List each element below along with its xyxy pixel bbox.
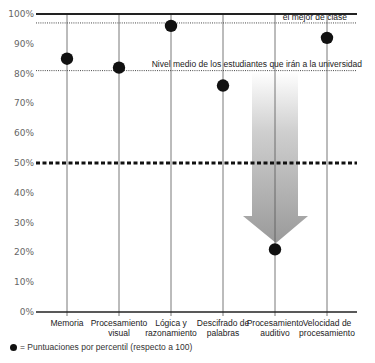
data-point-dot <box>217 79 229 91</box>
y-tick-label: 20% <box>14 247 34 257</box>
data-point-dot <box>321 32 333 44</box>
data-point-dot <box>269 243 281 255</box>
reference-lines <box>36 23 357 163</box>
y-axis-tick-labels: 0%10%20%30%40%50%60%70%80%90%100% <box>8 9 34 317</box>
y-tick-label: 100% <box>8 9 34 19</box>
x-category-label: Lógica y <box>155 318 187 328</box>
x-category-label: Procesamiento <box>91 318 148 328</box>
x-axis-category-labels: MemoriaProcesamientovisualLógica yrazona… <box>50 318 355 338</box>
legend: = Puntuaciones por percentil (respecto a… <box>10 342 192 352</box>
decline-arrow <box>243 72 308 243</box>
x-category-label: auditivo <box>260 328 290 338</box>
down-arrow-icon <box>243 72 308 243</box>
y-tick-label: 80% <box>14 69 34 79</box>
legend-text: = Puntuaciones por percentil (respecto a… <box>20 342 192 352</box>
y-tick-label: 40% <box>14 188 34 198</box>
x-category-label: Memoria <box>50 318 83 328</box>
y-tick-label: 50% <box>14 158 34 168</box>
x-category-label: visual <box>108 328 130 338</box>
x-category-label: razonamiento <box>145 328 197 338</box>
data-point-dot <box>113 61 125 73</box>
data-point-dot <box>61 53 73 65</box>
y-tick-label: 0% <box>20 307 35 317</box>
y-tick-label: 70% <box>14 98 34 108</box>
y-tick-label: 10% <box>14 277 34 287</box>
x-category-label: procesamiento <box>299 328 355 338</box>
percentile-chart: 0%10%20%30%40%50%60%70%80%90%100% Memori… <box>0 0 375 340</box>
y-tick-label: 30% <box>14 218 34 228</box>
x-category-label: Procesamiento <box>247 318 304 328</box>
best-in-class-label: el mejor de clase <box>283 12 348 22</box>
legend-dot-icon <box>10 344 17 351</box>
x-category-label: Descifrado de <box>197 318 250 328</box>
college-average-label: Nivel medio de los estudiantes que irán … <box>152 59 363 69</box>
y-tick-label: 90% <box>14 39 34 49</box>
x-category-label: Velocidad de <box>303 318 352 328</box>
data-point-dot <box>165 20 177 32</box>
y-tick-label: 60% <box>14 128 34 138</box>
x-category-label: palabras <box>207 328 240 338</box>
